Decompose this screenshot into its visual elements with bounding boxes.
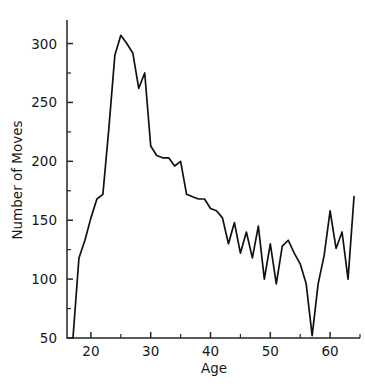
figure-container: 2030405060 50100150200250300 Age Number … <box>0 0 365 386</box>
data-series-line <box>73 35 354 338</box>
x-axis-title: Age <box>201 360 227 376</box>
y-tick-label: 50 <box>40 330 57 346</box>
y-axis-ticks <box>67 44 73 338</box>
line-chart: 2030405060 50100150200250300 Age Number … <box>0 0 365 386</box>
x-axis-ticks <box>91 332 360 338</box>
y-tick-label: 150 <box>31 212 57 228</box>
x-axis-tick-labels: 2030405060 <box>82 343 338 359</box>
y-tick-label: 300 <box>31 36 57 52</box>
x-tick-label: 40 <box>202 343 219 359</box>
x-tick-label: 30 <box>142 343 159 359</box>
y-tick-label: 200 <box>31 153 57 169</box>
x-tick-label: 60 <box>322 343 339 359</box>
axis-lines <box>67 20 360 338</box>
x-tick-label: 20 <box>82 343 99 359</box>
y-tick-label: 100 <box>31 271 57 287</box>
y-axis-title: Number of Moves <box>9 120 25 239</box>
x-tick-label: 50 <box>262 343 279 359</box>
y-axis-tick-labels: 50100150200250300 <box>31 36 57 346</box>
y-tick-label: 250 <box>31 94 57 110</box>
axes: 2030405060 50100150200250300 <box>31 20 360 359</box>
